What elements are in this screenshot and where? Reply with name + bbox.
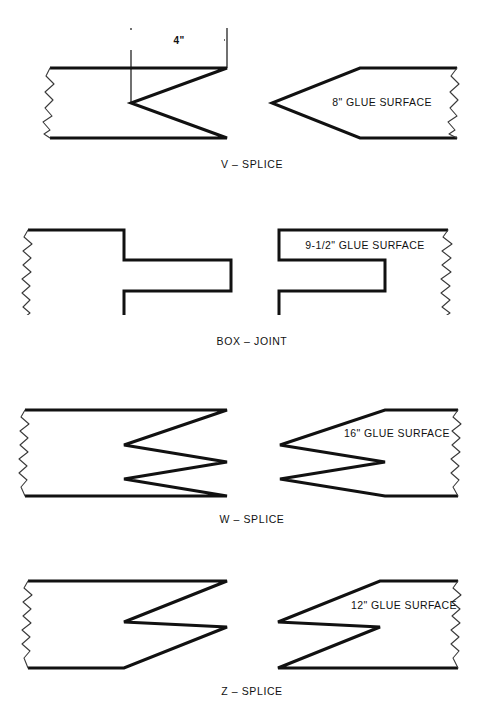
caption-z-splice: Z – SPLICE	[0, 685, 504, 697]
box-joint-drawing: 9-1/2" GLUE SURFACE	[0, 215, 504, 315]
w-splice-right-piece: 16" GLUE SURFACE	[280, 410, 461, 496]
left-break-line	[43, 68, 54, 138]
left-break-line	[22, 581, 32, 668]
w-splice-left-piece	[19, 410, 227, 496]
z-splice-drawing: 12" GLUE SURFACE	[0, 565, 504, 670]
dimension-label: 4"	[174, 35, 185, 46]
z-splice-left-piece	[22, 581, 227, 668]
dimension-label-backdrop	[126, 30, 180, 50]
left-board-outline	[28, 581, 227, 668]
figure-z-splice: 12" GLUE SURFACE Z – SPLICE	[0, 565, 504, 670]
w-splice-drawing: 16" GLUE SURFACE	[0, 395, 504, 500]
z-splice-right-piece: 12" GLUE SURFACE	[278, 581, 461, 668]
right-board-outline	[280, 410, 458, 496]
v-splice-drawing: 4" 8" GLUE SURFACE	[0, 0, 504, 155]
figure-w-splice: 16" GLUE SURFACE W – SPLICE	[0, 395, 504, 500]
left-break-line	[19, 410, 29, 496]
figure-v-splice: 4" 8" GLUE SURFACE V – SPLICE	[0, 0, 504, 155]
right-board-outline	[278, 581, 458, 668]
dimension-group-4in: 4"	[126, 28, 227, 103]
glue-surface-label: 8" GLUE SURFACE	[332, 96, 432, 108]
diagram-sheet: 4" 8" GLUE SURFACE V – SPLICE	[0, 0, 504, 708]
v-splice-left-piece	[43, 68, 227, 138]
caption-box-joint: BOX – JOINT	[0, 335, 504, 347]
right-break-line	[451, 581, 461, 668]
box-joint-left-piece	[22, 230, 231, 315]
dimension-label-backdrop-2	[178, 30, 224, 50]
right-break-line	[448, 68, 459, 138]
figure-box-joint: 9-1/2" GLUE SURFACE BOX – JOINT	[0, 215, 504, 315]
left-board-outline	[28, 230, 231, 315]
right-break-line	[441, 230, 452, 315]
caption-w-splice: W – SPLICE	[0, 513, 504, 525]
left-break-line	[22, 230, 32, 315]
left-board-outline	[25, 410, 227, 496]
v-splice-right-piece: 8" GLUE SURFACE	[272, 68, 459, 138]
right-break-line	[451, 410, 461, 496]
left-board-outline	[50, 68, 227, 138]
glue-surface-label: 12" GLUE SURFACE	[351, 599, 457, 611]
glue-surface-label: 9-1/2" GLUE SURFACE	[305, 239, 424, 251]
caption-v-splice: V – SPLICE	[0, 158, 504, 170]
glue-surface-label: 16" GLUE SURFACE	[344, 427, 450, 439]
box-joint-right-piece: 9-1/2" GLUE SURFACE	[279, 230, 452, 315]
